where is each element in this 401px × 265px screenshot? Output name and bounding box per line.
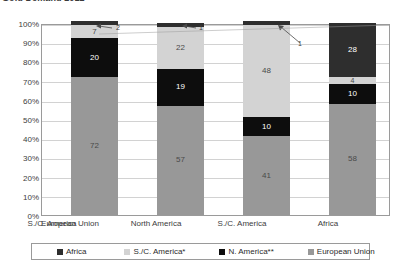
segment-value: 19 (176, 83, 185, 91)
x-tick-sc-america: S./C. America (0, 219, 104, 228)
bar-africa[interactable]: 58 10 4 28 (329, 23, 376, 215)
y-axis: 100% 90% 80% 70% 60% 50% 40% 30% 20% 10%… (0, 24, 39, 216)
segment-africa[interactable] (157, 23, 204, 27)
y-tick-10: 10% (1, 192, 39, 201)
segment-africa[interactable] (71, 21, 118, 25)
x-tick-africa: Africa (276, 219, 380, 228)
segment-value: 4 (351, 77, 355, 84)
y-tick-70: 70% (1, 77, 39, 86)
legend: Africa S./C. America* N. America** Europ… (31, 243, 370, 260)
segment-n-america[interactable]: 20 (71, 38, 118, 76)
y-tick-100: 100% (1, 20, 39, 29)
segment-sc-america[interactable]: 4 (329, 77, 376, 85)
segment-value: 57 (176, 156, 185, 164)
segment-n-america[interactable]: 10 (243, 117, 290, 136)
bar-european-union[interactable]: 72 20 7 (71, 21, 118, 215)
legend-label: Africa (66, 247, 86, 256)
legend-swatch-icon (57, 249, 63, 255)
bar-north-america[interactable]: 57 19 22 (157, 23, 204, 215)
segment-value: 10 (262, 123, 271, 131)
legend-item-africa[interactable]: Africa (57, 247, 86, 256)
legend-label: S./C. America* (133, 247, 185, 256)
callout-label-eu-africa: 2 (116, 24, 120, 31)
legend-item-sc-america[interactable]: S./C. America* (124, 247, 185, 256)
segment-value: 48 (262, 67, 271, 75)
segment-africa[interactable]: 28 (329, 23, 376, 77)
y-tick-50: 50% (1, 116, 39, 125)
segment-european-union[interactable]: 58 (329, 104, 376, 215)
legend-swatch-icon (219, 249, 225, 255)
segment-value: 10 (348, 90, 357, 98)
segment-sc-america[interactable]: 7 (71, 25, 118, 38)
y-tick-40: 40% (1, 135, 39, 144)
segment-sc-america[interactable]: 22 (157, 27, 204, 69)
y-tick-60: 60% (1, 96, 39, 105)
legend-item-n-america[interactable]: N. America** (219, 247, 273, 256)
segment-european-union[interactable]: 41 (243, 136, 290, 215)
bar-sc-america[interactable]: 41 10 48 (243, 21, 290, 215)
legend-item-european-union[interactable]: European Union (308, 247, 375, 256)
segment-africa[interactable] (243, 21, 290, 25)
plot-area: 72 20 7 57 19 22 41 10 (41, 24, 390, 216)
segment-n-america[interactable]: 10 (329, 84, 376, 103)
callout-label-sca-africa: 1 (298, 40, 302, 47)
segment-value: 72 (90, 142, 99, 150)
segment-european-union[interactable]: 72 (71, 77, 118, 215)
segment-value: 41 (262, 172, 271, 180)
y-tick-90: 90% (1, 39, 39, 48)
y-tick-80: 80% (1, 58, 39, 67)
legend-label: European Union (317, 247, 375, 256)
legend-label: N. America** (228, 247, 273, 256)
segment-value: 22 (176, 44, 185, 52)
segment-sc-america[interactable]: 48 (243, 25, 290, 117)
segment-european-union[interactable]: 57 (157, 106, 204, 215)
legend-swatch-icon (308, 249, 314, 255)
legend-swatch-icon (124, 249, 130, 255)
segment-value: 20 (90, 54, 99, 62)
segment-n-america[interactable]: 19 (157, 69, 204, 106)
segment-value: 28 (348, 46, 357, 54)
y-tick-20: 20% (1, 173, 39, 182)
segment-value: 58 (348, 155, 357, 163)
y-tick-30: 30% (1, 154, 39, 163)
callout-label-na-africa: 1 (199, 24, 203, 31)
chart-title: Gold Demand 2012 (2, 0, 85, 3)
segment-value: 7 (92, 28, 96, 36)
